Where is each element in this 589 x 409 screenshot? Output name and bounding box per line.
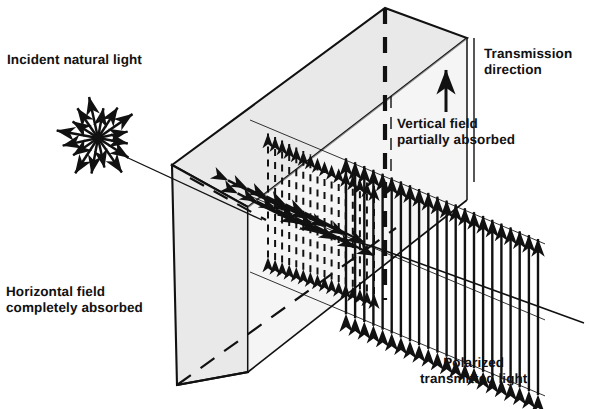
label-polarized-transmitted-light: Polarized transmitted light [420,355,527,387]
label-incident-natural-light: Incident natural light [7,52,142,68]
figure-canvas: Incident natural light Transmission dire… [0,0,589,409]
label-transmission-direction: Transmission direction [484,46,572,78]
label-vertical-field-partially-absorbed: Vertical field partially absorbed [397,116,515,148]
exit-ray-line [372,246,584,323]
polarizing-sheet [172,8,467,385]
unpolarized-light-starburst [57,97,133,174]
label-horizontal-field-completely-absorbed: Horizontal field completely absorbed [6,284,143,316]
